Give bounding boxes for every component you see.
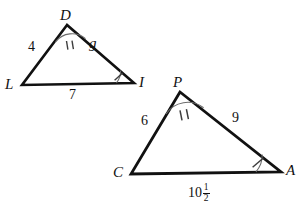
- vertex-label-i: I: [139, 75, 144, 90]
- angle-mark-a-single-tick: [253, 155, 264, 172]
- side-label-ca-whole: 10: [188, 186, 202, 200]
- side-label-ca-denominator: 2: [203, 194, 210, 204]
- triangles-canvas: [0, 0, 305, 214]
- side-label-di: g: [89, 36, 97, 51]
- geometry-figure: D L I 4 g 7 P C A 6 9 10 1 2: [0, 0, 305, 214]
- side-label-ca-numerator: 1: [203, 183, 210, 193]
- side-label-ca-mixed-number: 10 1 2: [188, 183, 210, 203]
- side-label-li: 7: [69, 88, 76, 102]
- vertex-label-l: L: [5, 77, 13, 92]
- side-label-dl: 4: [28, 40, 35, 54]
- vertex-label-d: D: [60, 8, 71, 23]
- vertex-label-a: A: [286, 163, 295, 178]
- side-label-ca-fraction: 1 2: [203, 183, 210, 203]
- vertex-label-c: C: [113, 165, 123, 180]
- side-label-pa: 9: [232, 111, 239, 125]
- side-label-pc: 6: [141, 114, 148, 128]
- vertex-label-p: P: [173, 75, 182, 90]
